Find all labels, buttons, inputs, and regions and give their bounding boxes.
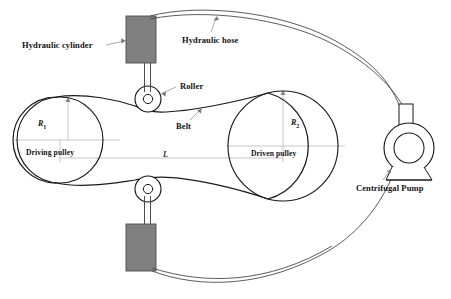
belt-lower-span: [56, 177, 268, 199]
arrow-hydraulic-hose: [214, 16, 219, 21]
diagram-canvas: Hydraulic cylinder Hydraulic hose Roller…: [0, 0, 451, 299]
upper-roller-assembly: [135, 63, 161, 112]
lower-roller-hub: [143, 184, 152, 193]
lower-hydraulic-cylinder: [126, 224, 156, 271]
label-roller: Roller: [180, 81, 203, 91]
label-driven-pulley: Driven pulley: [251, 149, 296, 158]
label-hydraulic-hose: Hydraulic hose: [182, 35, 238, 45]
pump-impeller-eye: [394, 133, 424, 163]
arrow-roller: [161, 92, 166, 97]
radius-2-subscript: 2: [296, 123, 299, 129]
label-hydraulic-cylinder: Hydraulic cylinder: [22, 40, 93, 50]
upper-hydraulic-cylinder: [126, 16, 156, 63]
lower-hydraulic-hose-strand-2: [152, 246, 332, 279]
label-centrifugal-pump: Centrifugal Pump: [356, 183, 423, 193]
arrow-hydraulic-cylinder: [121, 39, 126, 44]
label-belt: Belt: [176, 121, 191, 131]
label-center-distance: L: [163, 150, 168, 159]
driving-pulley: [17, 97, 103, 183]
driven-pulley: [228, 91, 338, 201]
label-radius-1: R1: [38, 119, 46, 130]
label-radius-2: R2: [291, 118, 299, 129]
radius-1-subscript: 1: [43, 124, 46, 130]
leader-hydraulic-cylinder: [106, 41, 124, 45]
upper-roller-hub: [143, 94, 152, 103]
centrifugal-pump: [384, 104, 434, 180]
pump-base: [386, 167, 432, 180]
label-driving-pulley: Driving pulley: [26, 148, 74, 157]
lower-roller-assembly: [135, 176, 161, 224]
